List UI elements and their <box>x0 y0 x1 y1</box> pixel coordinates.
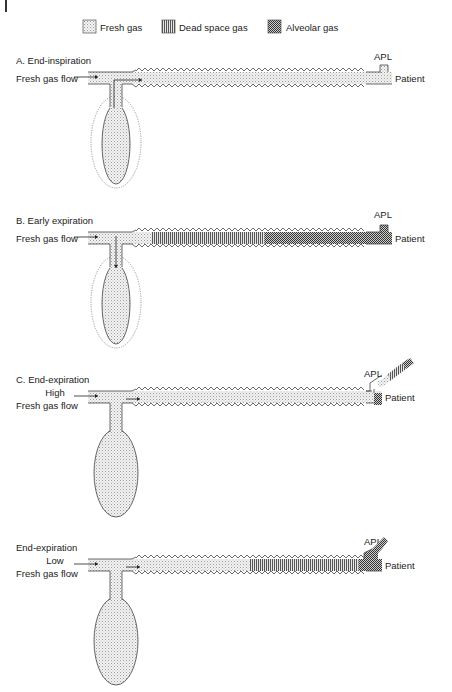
reservoir-bag <box>102 264 130 344</box>
reservoir-bag <box>94 597 138 685</box>
gas-segment-dead <box>152 232 264 244</box>
apl-valve-body <box>380 65 388 72</box>
bag-neck-fill <box>110 571 122 601</box>
legend-label: Dead space gas <box>179 22 248 33</box>
flow-level-label: Low <box>46 555 64 566</box>
patient-label: Patient <box>395 233 425 244</box>
flow-level-label: High <box>45 387 65 398</box>
legend-item-alveolar-gas: Alveolar gas <box>268 20 339 33</box>
corrugated-tube-top <box>136 555 364 558</box>
gas-segment-fresh <box>88 391 382 403</box>
legend-item-fresh-gas: Fresh gas <box>83 20 142 33</box>
patient-label: Patient <box>385 392 415 403</box>
corrugated-tube-bottom <box>136 403 364 406</box>
fresh-gas-flow-label: Fresh gas flow <box>16 233 78 244</box>
patient-alveolar-gas <box>374 393 382 405</box>
gas-segment-dead <box>250 559 359 571</box>
corrugated-tube-top <box>136 68 364 71</box>
gas-segment-alveolar <box>264 232 392 244</box>
panels: A. End-inspirationFresh gas flowAPLPatie… <box>16 51 425 685</box>
apl-label: APL <box>364 368 382 379</box>
inlet-wall-top <box>88 557 136 559</box>
mapleson-a-diagram: Fresh gas Dead space gas Alveolar gas A.… <box>0 0 452 692</box>
fresh-gas-flow-label: Fresh gas flow <box>16 73 78 84</box>
panel-title: C. End-expiration <box>16 374 89 385</box>
panel-b: B. Early expirationFresh gas flowAPLPati… <box>16 209 425 348</box>
bag-neck-fill <box>110 403 122 433</box>
fresh-gas-flow-label: Fresh gas flow <box>16 568 78 579</box>
legend-label: Fresh gas <box>100 22 142 33</box>
fresh-gas-flow-label: Fresh gas flow <box>16 400 78 411</box>
corrugated-tube-bottom <box>136 244 364 247</box>
gas-segment-fresh <box>88 559 250 571</box>
alveolar-gas-swatch <box>268 20 281 33</box>
apl-valve <box>366 383 370 391</box>
fresh-gas-swatch <box>83 20 96 33</box>
inlet-wall-top <box>88 389 136 391</box>
panel-a: A. End-inspirationFresh gas flowAPLPatie… <box>16 51 425 188</box>
bag-neck-fill <box>110 84 122 108</box>
gas-segment-fresh <box>88 232 152 244</box>
corrugated-tube-top <box>136 228 364 231</box>
apl-label: APL <box>374 209 392 220</box>
panel-c: C. End-expirationHighFresh gas flowAPLPa… <box>16 358 415 517</box>
gas-segment-fresh <box>88 72 392 84</box>
reservoir-bag <box>102 104 130 184</box>
legend: Fresh gas Dead space gas Alveolar gas <box>83 20 339 33</box>
corrugated-tube-top <box>136 387 364 390</box>
patient-label: Patient <box>395 73 425 84</box>
legend-item-dead-space-gas: Dead space gas <box>162 20 248 33</box>
inlet-wall-top <box>88 230 136 232</box>
reservoir-bag <box>94 429 138 517</box>
legend-label: Alveolar gas <box>286 22 339 33</box>
corrugated-tube-bottom <box>136 571 364 574</box>
apl-label: APL <box>374 51 392 62</box>
panel-title: End-expiration <box>16 542 77 553</box>
inlet-wall-top <box>88 70 136 72</box>
vented-dead-space-gas <box>388 363 406 381</box>
panel-title: A. End-inspiration <box>16 55 91 66</box>
dead-space-gas-swatch <box>162 20 175 33</box>
patient-label: Patient <box>385 560 415 571</box>
corrugated-tube-bottom <box>136 84 364 87</box>
apl-valve-body <box>380 225 388 232</box>
panel-title: B. Early expiration <box>16 215 93 226</box>
panel-d: End-expirationLowFresh gas flowAPLPatien… <box>16 536 415 685</box>
